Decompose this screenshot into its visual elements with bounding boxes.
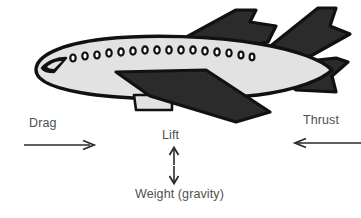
thrust-label: Thrust <box>303 114 339 127</box>
drag-label: Drag <box>29 117 57 130</box>
drag-arrow <box>24 139 98 151</box>
airplane-illustration <box>0 0 361 218</box>
diagram-canvas: Drag Thrust Lift Weight (gravity) <box>0 0 361 218</box>
lift-label: Lift <box>162 129 179 142</box>
weight-label: Weight (gravity) <box>135 188 224 201</box>
thrust-arrow <box>293 137 361 149</box>
lift-arrow <box>168 147 180 165</box>
weight-arrow <box>168 166 180 184</box>
